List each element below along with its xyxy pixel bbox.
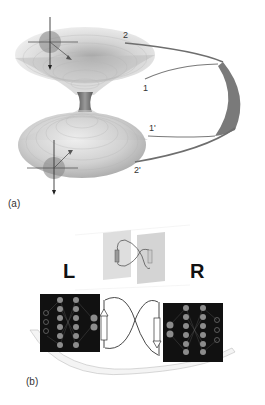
wormhole-diagram: 2 1 1' 2' — [15, 17, 240, 195]
figure-canvas: 2 1 1' 2' — [0, 0, 265, 405]
panel-a-label: (a) — [8, 198, 20, 209]
up-arrow — [100, 309, 108, 340]
label-2-prime: 2' — [134, 165, 141, 175]
left-label: L — [63, 260, 75, 283]
network-diagram — [30, 225, 235, 375]
up-arrow-small — [115, 250, 119, 262]
top-funnel — [15, 27, 155, 95]
central-planes — [103, 230, 165, 284]
throat — [77, 92, 93, 112]
right-label: R — [190, 260, 204, 283]
left-network — [40, 294, 100, 352]
down-arrow — [153, 318, 161, 348]
panel-b-label: (b) — [26, 376, 38, 387]
down-arrow-small — [148, 250, 152, 263]
right-network — [163, 303, 223, 362]
label-2: 2 — [123, 30, 128, 40]
entangled-links — [104, 298, 159, 357]
label-1: 1 — [143, 83, 148, 93]
label-1-prime: 1' — [149, 123, 156, 133]
